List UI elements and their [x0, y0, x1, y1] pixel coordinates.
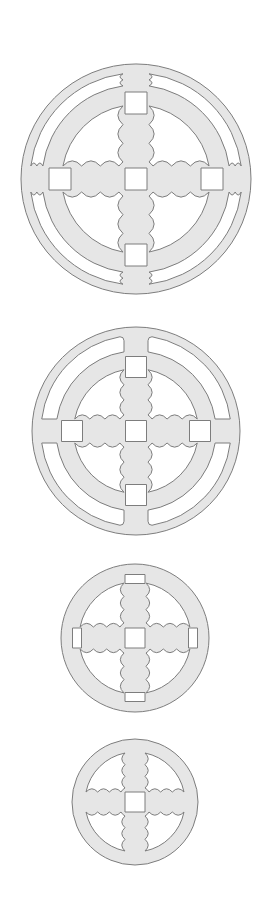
disc-2-double-ring-plain-slots [32, 327, 240, 535]
disc-1-double-ring-leaf-arms [21, 64, 251, 294]
disc-group [21, 64, 251, 865]
disc-4-single-ring-center-square [72, 739, 198, 865]
ornamental-disc-diagram [0, 0, 268, 899]
disc-3-single-ring-with-slots [61, 564, 209, 712]
